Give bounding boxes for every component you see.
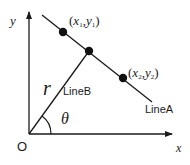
point-1-label: (x1,y1) — [69, 14, 100, 29]
point-1 — [59, 28, 67, 36]
point-2 — [119, 74, 127, 82]
line-b-label: LineB — [63, 86, 91, 97]
point-2-label: (x2,y2) — [128, 66, 159, 81]
r-label: r — [43, 78, 51, 98]
line-a-label: LineA — [145, 104, 173, 115]
x-axis-label: x — [176, 142, 181, 154]
theta-label: θ — [61, 111, 69, 127]
origin-label: O — [17, 140, 27, 153]
angle-arc — [42, 116, 51, 134]
y-axis-label: y — [10, 14, 16, 27]
intersection-point — [85, 47, 93, 55]
